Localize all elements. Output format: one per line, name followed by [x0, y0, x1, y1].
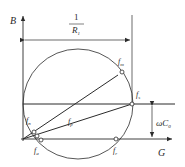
point-fm: [120, 70, 124, 74]
omega-c0-label: ωC0: [156, 118, 171, 129]
b-axis-label: B: [10, 15, 16, 26]
diameter-dimension: [25, 15, 132, 104]
g-axis-label: G: [158, 147, 165, 158]
point-fa: [39, 138, 43, 142]
line-origin-to-fm: [23, 75, 118, 139]
label-fa: fa: [34, 146, 39, 156]
label-fm: fm: [118, 57, 124, 67]
label-fr: fr: [113, 146, 117, 156]
point-fn: [32, 130, 36, 134]
point-fr: [114, 137, 118, 141]
label-fp: fp: [68, 117, 73, 127]
label-fn: fn: [26, 116, 31, 126]
point-fs: [130, 102, 134, 106]
point-fp: [35, 134, 39, 138]
label-fs: fs: [136, 90, 140, 100]
admittance-circle-diagram: B G 1 R1 ωC0 fm fs fn fp fa fr: [0, 0, 185, 167]
diameter-denominator: R1: [71, 25, 80, 36]
line-origin-to-fs: [23, 104, 132, 139]
diameter-numerator: 1: [74, 12, 79, 22]
